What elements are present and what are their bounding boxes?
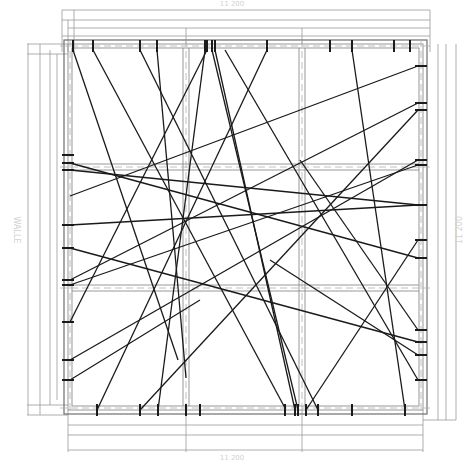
tendon-cable [140, 110, 418, 410]
tendon-cable [70, 50, 207, 322]
tendon-cable [73, 50, 178, 360]
top-dimension-label: 11 200 [220, 0, 245, 8]
tendon-cable [70, 163, 418, 258]
tendon-cable [70, 248, 418, 342]
tendon-cables [70, 50, 418, 410]
bottom-dimension-label: 11 200 [220, 454, 245, 461]
tendon-cable [352, 50, 405, 410]
right-dimension-label: 11 200 [455, 216, 464, 244]
tendon-cable [70, 170, 418, 205]
left-dimension-label: WALLE [12, 217, 21, 244]
tendon-cable [70, 103, 418, 280]
tendon-cable [70, 205, 418, 225]
tendon-cable [215, 50, 295, 410]
structural-plan-drawing: 11 200 11 200 WALLE 11 200 [0, 0, 467, 461]
tendon-cable [70, 300, 200, 380]
tendon-cable [70, 66, 418, 196]
tendon-cable [70, 160, 418, 360]
